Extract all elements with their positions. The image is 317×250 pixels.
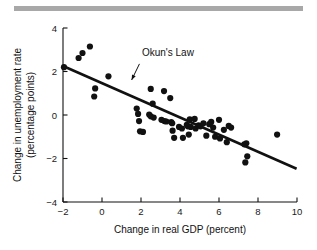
x-tick-label: 2 <box>138 206 143 217</box>
y-tick-label: 0 <box>52 110 57 121</box>
x-tick-label: 4 <box>177 206 182 217</box>
data-point <box>76 55 82 61</box>
data-point <box>179 125 185 131</box>
annotation-okuns-law: Okun's Law <box>132 47 195 80</box>
data-point <box>169 120 175 126</box>
data-point <box>134 105 140 111</box>
data-point <box>192 116 198 122</box>
data-point <box>161 88 167 94</box>
scatter-plot-canvas: −20246810 −4−2024 Okun's Law Change in r… <box>0 0 317 250</box>
data-point <box>140 129 146 135</box>
data-point <box>228 125 234 131</box>
data-point <box>92 85 98 91</box>
data-point <box>242 159 248 165</box>
data-point <box>151 115 157 121</box>
data-point <box>208 119 214 125</box>
data-point <box>91 93 97 99</box>
okuns-law-label: Okun's Law <box>142 47 195 58</box>
data-point <box>244 153 250 159</box>
regression-line <box>63 66 297 169</box>
x-tick-label: 8 <box>255 206 260 217</box>
x-tick-label: 0 <box>99 206 104 217</box>
data-point <box>180 135 186 141</box>
data-point <box>167 95 173 101</box>
data-point <box>105 73 111 79</box>
y-axis-tick-labels: −4−2024 <box>46 23 57 208</box>
x-tick-label: −2 <box>58 206 69 217</box>
y-axis-title-line1: Change in unemployment rate <box>12 48 23 182</box>
data-point <box>274 131 280 137</box>
data-point <box>79 50 85 56</box>
y-tick-label: −4 <box>46 197 57 208</box>
okuns-law-fit-line <box>63 66 297 169</box>
okuns-law-figure: −20246810 −4−2024 Okun's Law Change in r… <box>0 0 317 250</box>
data-point <box>171 135 177 141</box>
data-point <box>216 117 222 123</box>
y-tick-label: 4 <box>52 23 57 34</box>
data-point <box>135 111 141 117</box>
y-tick-label: 2 <box>52 66 57 77</box>
data-point <box>186 131 192 137</box>
data-point <box>148 86 154 92</box>
annotation-arrowhead <box>132 75 136 80</box>
data-point <box>87 43 93 49</box>
y-axis-title-line2: (percentage points) <box>25 72 36 158</box>
y-tick-label: −2 <box>46 153 57 164</box>
data-point <box>136 118 142 124</box>
x-axis-title: Change in real GDP (percent) <box>114 224 246 235</box>
data-point <box>221 127 227 133</box>
x-axis-tick-labels: −20246810 <box>58 206 303 217</box>
x-tick-label: 6 <box>216 206 221 217</box>
x-tick-label: 10 <box>292 206 303 217</box>
data-point <box>169 128 175 134</box>
data-point <box>203 133 209 139</box>
